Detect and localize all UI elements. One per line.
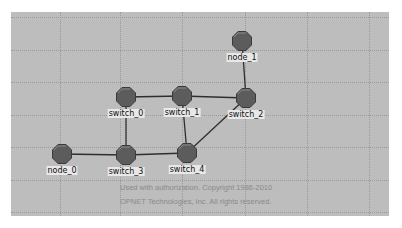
node-label: node_1: [226, 53, 257, 62]
network-links: [0, 0, 402, 228]
octagon-node-icon: [116, 145, 136, 165]
node-switch_0[interactable]: [116, 87, 136, 107]
node-switch_2[interactable]: [236, 88, 256, 108]
octagon-node-icon: [116, 87, 136, 107]
node-label: switch_1: [164, 108, 201, 117]
node-switch_1[interactable]: [172, 86, 192, 106]
copyright-line-1: Used with authorization. Copyright 1986-…: [120, 183, 272, 192]
copyright-line-2: OPNET Technologies, Inc. All rights rese…: [120, 197, 271, 206]
octagon-node-icon: [236, 88, 256, 108]
node-node_0[interactable]: [52, 144, 72, 164]
node-label: node_0: [46, 166, 77, 175]
octagon-node-icon: [177, 143, 197, 163]
node-node_1[interactable]: [232, 31, 252, 51]
octagon-node-icon: [52, 144, 72, 164]
node-switch_3[interactable]: [116, 145, 136, 165]
node-label: switch_4: [169, 165, 206, 174]
node-label: switch_0: [108, 109, 145, 118]
node-switch_4[interactable]: [177, 143, 197, 163]
node-label: switch_3: [108, 167, 145, 176]
octagon-node-icon: [232, 31, 252, 51]
node-label: switch_2: [228, 110, 265, 119]
octagon-node-icon: [172, 86, 192, 106]
